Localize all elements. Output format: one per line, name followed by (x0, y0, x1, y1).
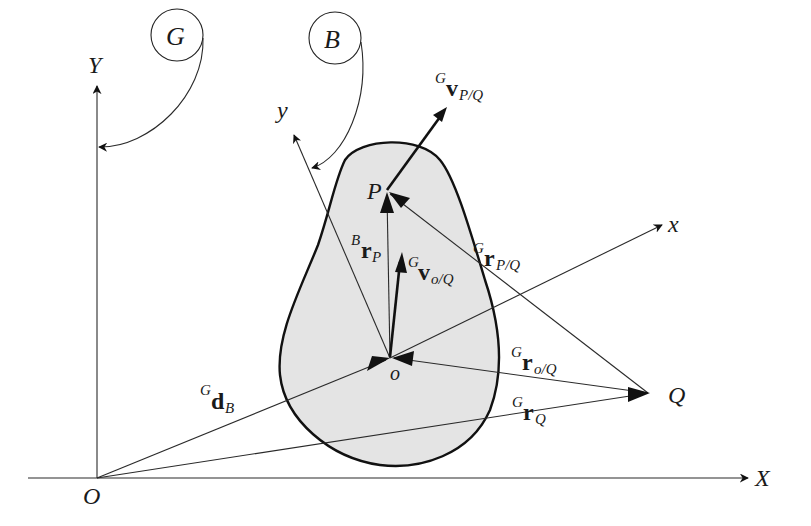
svg-text:o/Q: o/Q (534, 361, 557, 377)
point-p-label: P (366, 178, 382, 204)
label-d-b: G d B (200, 382, 234, 416)
frame-b-label: B (324, 25, 340, 54)
body-y-label: y (275, 97, 288, 123)
kinematics-diagram: G B Y X O y x o P Q G d B B r P G v o/Q … (0, 0, 811, 526)
svg-text:Q: Q (535, 411, 546, 427)
svg-text:G: G (473, 240, 484, 256)
svg-text:P: P (371, 249, 381, 265)
body-origin-label: o (390, 362, 400, 384)
svg-text:P/Q: P/Q (495, 257, 520, 273)
body-x-label: x (667, 211, 679, 237)
arrowhead-v-p-q (433, 107, 447, 122)
svg-text:r: r (484, 245, 495, 271)
global-origin-label: O (83, 483, 100, 509)
point-q-label: Q (668, 382, 685, 408)
svg-text:r: r (361, 237, 372, 263)
svg-text:o/Q: o/Q (431, 271, 454, 287)
svg-text:G: G (512, 394, 523, 410)
label-v-p-q: G v P/Q (435, 70, 483, 103)
svg-text:G: G (511, 344, 522, 360)
svg-text:v: v (418, 259, 430, 285)
svg-text:d: d (211, 388, 225, 414)
svg-text:r: r (523, 399, 534, 425)
label-r-q: G r Q (512, 394, 546, 427)
svg-text:B: B (225, 400, 234, 416)
svg-text:G: G (435, 70, 446, 86)
global-y-label: Y (88, 52, 104, 78)
svg-text:P/Q: P/Q (458, 87, 483, 103)
arrowhead-r-q (628, 387, 650, 402)
svg-text:v: v (446, 75, 458, 101)
svg-text:B: B (351, 232, 360, 248)
svg-text:r: r (522, 349, 533, 375)
frame-g-label: G (166, 22, 185, 51)
svg-text:G: G (200, 382, 211, 398)
label-r-o-q: G r o/Q (511, 344, 557, 377)
global-x-label: X (754, 465, 771, 491)
